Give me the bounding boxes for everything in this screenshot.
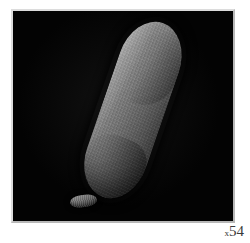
magnification-label: x 54 [225, 224, 245, 239]
specimen-apex-shading [106, 13, 192, 113]
fragment-striation-texture [69, 193, 97, 208]
specimen-striation-texture [74, 13, 193, 207]
specimen-grain-texture [74, 13, 193, 207]
specimen-edge-glow [67, 11, 198, 213]
micrograph-frame [11, 9, 235, 223]
detached-fragment [69, 193, 97, 208]
rod-shaped-specimen [74, 13, 193, 207]
specimen-group [13, 11, 233, 221]
magnification-value: 54 [229, 224, 244, 239]
micrograph-figure: x 54 [0, 0, 250, 243]
micrograph-image-field [13, 11, 233, 221]
